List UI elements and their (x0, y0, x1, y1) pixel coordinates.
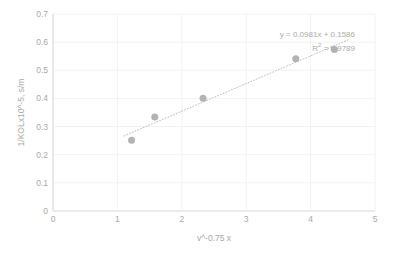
y-tick-label: 0.4 (36, 94, 48, 103)
data-point-marker (151, 114, 158, 121)
y-tick-label: 0.2 (36, 150, 48, 159)
data-point-marker (292, 55, 299, 62)
data-point-marker (200, 95, 207, 102)
y-tick-label: 0 (43, 207, 48, 216)
trendline-r-squared-text: R2 = 0.9789 (205, 40, 355, 54)
x-axis-title: v^-0.75 x (53, 232, 375, 244)
x-axis-tick-labels: 012345 (53, 215, 375, 229)
x-tick-label: 5 (373, 215, 378, 224)
x-tick-label: 1 (115, 215, 120, 224)
x-tick-label: 4 (308, 215, 313, 224)
x-tick-label: 0 (51, 215, 56, 224)
trendline-equation-annotation: y = 0.0981x + 0.1586 R2 = 0.9789 (205, 30, 355, 54)
x-tick-label: 3 (244, 215, 249, 224)
y-tick-label: 0.5 (36, 66, 48, 75)
chart-container: 00.10.20.30.40.50.60.7 012345 y = 0.0981… (0, 0, 410, 256)
y-tick-label: 0.6 (36, 38, 48, 47)
r-squared-value: = 0.9789 (321, 44, 355, 53)
y-tick-label: 0.1 (36, 179, 48, 188)
trendline-equation-text: y = 0.0981x + 0.1586 (205, 30, 355, 40)
data-point-marker (128, 137, 135, 144)
y-tick-label: 0.3 (36, 122, 48, 131)
y-axis-title: 1/KOLx10^-5, s/m (14, 14, 28, 211)
y-tick-label: 0.7 (36, 10, 48, 19)
x-tick-label: 2 (179, 215, 184, 224)
